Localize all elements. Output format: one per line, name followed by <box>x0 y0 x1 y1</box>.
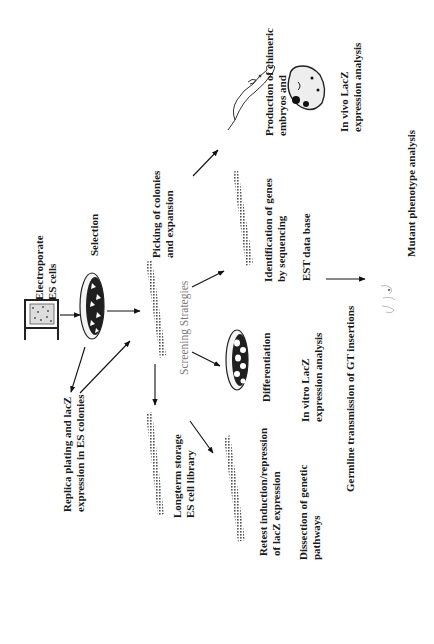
label-retest: Retest induction/repression of lacZ expr… <box>257 428 282 556</box>
label-screening-strategies: Screening Strategies <box>178 281 191 375</box>
label-selection: Selection <box>88 214 101 256</box>
label-mutant: Mutant phenotype analysis <box>405 130 418 257</box>
label-electroporate: Electroporate ES cells <box>33 235 58 300</box>
selection-dish-icon <box>80 273 104 339</box>
colony-plate-icon <box>146 260 166 358</box>
mutant-mice-icon <box>381 285 395 312</box>
embryo-icon <box>288 66 324 110</box>
label-chimeric: Production of chimeric embryos and <box>263 28 288 136</box>
label-dissection: Dissection of genetic pathways <box>297 465 322 560</box>
label-invivo: In vivo LacZ expression analysis <box>338 43 363 132</box>
electroporation-cuvette-icon <box>25 300 58 340</box>
library-plate-icon <box>146 412 164 516</box>
label-invitro: In vitro LacZ expression analysis <box>299 333 324 422</box>
diagram-graphics <box>0 0 434 644</box>
label-replica-plating: Replica plating and lacZ expression in E… <box>61 395 86 512</box>
label-germline: Germline transmission of GT insertions <box>344 306 357 492</box>
label-longterm-storage: Longterm storage ES cell library <box>171 434 196 518</box>
label-picking: Picking of colonies and expansion <box>150 171 175 258</box>
label-est: EST data base <box>300 213 313 281</box>
label-differentiation: Differentiation <box>260 333 273 402</box>
sequencing-plate-icon <box>233 170 253 266</box>
label-identification: Identification of genes by sequencing <box>262 178 287 282</box>
differentiation-dish-icon <box>226 330 248 390</box>
retest-plate-icon <box>224 435 245 542</box>
